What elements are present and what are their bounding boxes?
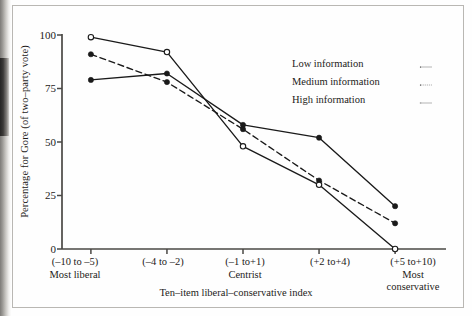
chart-legend: Low information Medium information High … — [292, 58, 452, 112]
y-tick-label-100: 100 — [26, 29, 56, 41]
legend-key-low-icon — [400, 66, 452, 68]
y-tick-label-0: 0 — [26, 243, 56, 255]
legend-item-medium: Medium information — [292, 76, 452, 94]
x-tick-sublabel: Centrist — [185, 269, 305, 282]
legend-key-medium-icon — [400, 84, 452, 86]
x-tick-sublabel: Most liberal — [15, 269, 135, 282]
y-tick-label-25: 25 — [26, 189, 56, 201]
x-axis-title: Ten–item liberal–conservative index — [0, 287, 472, 298]
legend-label-medium: Medium information — [292, 76, 380, 87]
legend-label-high: High information — [292, 94, 365, 105]
y-tick-label-75: 75 — [26, 82, 56, 94]
legend-label-low: Low information — [292, 58, 363, 69]
figure-page: Percentage for Gore (of two–party vote) … — [0, 0, 472, 316]
legend-key-high-icon — [400, 102, 452, 104]
y-tick-label-50: 50 — [26, 136, 56, 148]
legend-item-high: High information — [292, 94, 452, 112]
x-tick-range: (+5 to+10) — [353, 256, 472, 269]
legend-item-low: Low information — [292, 58, 452, 76]
